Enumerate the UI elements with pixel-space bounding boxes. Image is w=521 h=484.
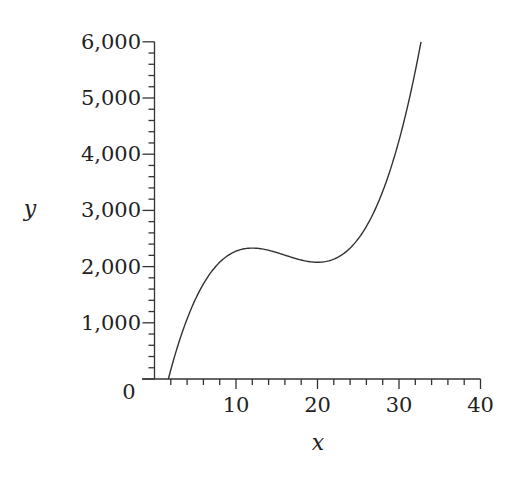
x-axis: 10203040: [142, 379, 494, 417]
x-tick-label: 30: [386, 393, 413, 417]
origin-label: 0: [122, 380, 135, 404]
chart: 1,0002,0003,0004,0005,0006,0000 10203040…: [0, 0, 521, 484]
y-tick-label: 4,000: [81, 142, 141, 166]
x-tick-label: 40: [467, 393, 494, 417]
y-tick-label: 2,000: [81, 255, 141, 279]
x-tick-label: 10: [223, 393, 250, 417]
y-tick-label: 3,000: [81, 198, 141, 222]
y-tick-label: 1,000: [81, 311, 141, 335]
x-tick-label: 20: [304, 393, 331, 417]
y-tick-label: 6,000: [81, 30, 141, 54]
y-tick-label: 5,000: [81, 86, 141, 110]
data-curve: [168, 42, 421, 379]
x-axis-label: x: [312, 430, 325, 455]
y-axis-label: y: [23, 196, 37, 221]
y-axis: 1,0002,0003,0004,0005,0006,0000: [81, 30, 155, 404]
